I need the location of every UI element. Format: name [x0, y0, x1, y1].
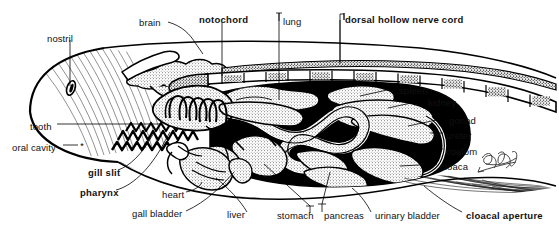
svg-text:*: * — [80, 141, 84, 151]
label-oral-cavity: oral cavity — [12, 143, 56, 153]
label-gonad: gonad — [449, 116, 476, 126]
oral-cavity-marker: * — [80, 141, 84, 151]
label-kidney: kidney — [428, 98, 456, 108]
label-liver: liver — [227, 210, 245, 220]
label-cloaca: cloaca — [440, 162, 468, 172]
label-spleen: spleen — [399, 86, 428, 96]
label-lung: lung — [283, 17, 301, 27]
label-gill-slit: gill slit — [88, 168, 120, 178]
label-coelom: coelom — [446, 147, 477, 157]
label-brain: brain — [139, 18, 161, 28]
diagram-canvas: * — [0, 0, 559, 230]
nostril-opening — [65, 80, 77, 97]
label-notochord: notochord — [199, 15, 248, 25]
label-nostril: nostril — [47, 34, 73, 44]
label-stomach: stomach — [277, 211, 314, 221]
leader-nerve-cord — [340, 13, 344, 62]
leader-urinary-bladder — [352, 188, 371, 212]
label-tooth: tooth — [30, 122, 52, 132]
label-urinary-bladder: urinary bladder — [375, 211, 440, 221]
label-heart: heart — [162, 190, 184, 200]
label-cloacal-aperture: cloacal aperture — [466, 211, 543, 221]
artist-signature — [478, 151, 517, 172]
label-pharynx: pharynx — [80, 188, 119, 198]
label-pancreas: pancreas — [324, 211, 364, 221]
leader-brain — [168, 22, 203, 54]
label-ureter: ureter — [446, 131, 471, 141]
label-gall-bladder: gall bladder — [132, 209, 182, 219]
label-dorsal-hollow-nerve-cord: dorsal hollow nerve cord — [345, 15, 463, 25]
gall-bladder-mass — [229, 159, 252, 183]
leader-pharynx — [116, 132, 170, 190]
